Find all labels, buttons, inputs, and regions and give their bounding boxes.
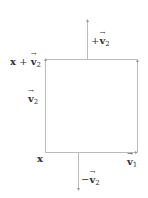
op: + xyxy=(16,56,31,67)
sub: 2 xyxy=(34,98,38,106)
vec: v xyxy=(99,36,105,46)
sub: 1 xyxy=(133,161,137,169)
diagram-canvas xyxy=(0,0,148,198)
sub: 2 xyxy=(37,61,41,69)
x-origin-label: x xyxy=(37,154,43,164)
vec: v xyxy=(127,157,133,167)
vec: v xyxy=(31,57,37,67)
base: x xyxy=(37,153,43,164)
sub: 2 xyxy=(95,179,99,187)
sub: 2 xyxy=(105,40,109,48)
plus-v2-label: +v2 xyxy=(91,36,110,48)
up-arrow-head-icon xyxy=(86,19,89,22)
minus-v2-label: −v2 xyxy=(81,175,100,187)
down-arrow-head-icon xyxy=(77,188,80,191)
v2-label: v2 xyxy=(28,94,38,106)
v1-label: v1 xyxy=(127,157,137,169)
x-plus-v2-label: x + v2 xyxy=(10,57,41,69)
vec: v xyxy=(89,175,95,185)
vec: v xyxy=(28,94,34,104)
